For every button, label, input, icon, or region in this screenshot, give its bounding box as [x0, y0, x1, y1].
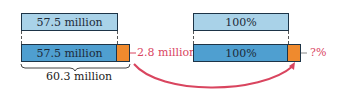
connectors — [0, 0, 340, 92]
total-brace — [21, 64, 130, 71]
curved-arrow — [134, 64, 293, 88]
